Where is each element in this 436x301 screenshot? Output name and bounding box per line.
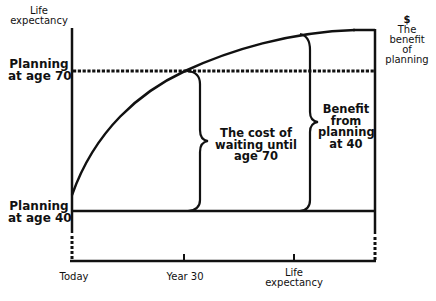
growth-curve bbox=[72, 30, 355, 195]
cost-of-waiting-label: The cost of waiting until age 70 bbox=[214, 128, 298, 163]
label-line: at age 70 bbox=[8, 70, 70, 82]
label-line: Today bbox=[52, 272, 96, 282]
label-line: age 70 bbox=[214, 151, 298, 163]
planning-70-label: Planning at age 70 bbox=[8, 58, 70, 82]
benefit-brace bbox=[300, 34, 318, 211]
label-line: at age 40 bbox=[8, 212, 70, 224]
x-label-life-expectancy: Life expectancy bbox=[264, 268, 324, 288]
benefit-from-planning-label: Benefit from planning at 40 bbox=[318, 104, 374, 150]
y-axis-top-label: Life expectancy bbox=[10, 6, 68, 26]
x-label-today: Today bbox=[52, 272, 96, 282]
x-label-year30: Year 30 bbox=[160, 272, 210, 282]
planning-diagram: Life expectancy Planning at age 70 Plann… bbox=[0, 0, 436, 301]
planning-40-label: Planning at age 40 bbox=[8, 200, 70, 224]
label-line: Year 30 bbox=[160, 272, 210, 282]
label-line: planning bbox=[382, 55, 432, 65]
label-line: at 40 bbox=[318, 139, 374, 151]
label-line: expectancy bbox=[264, 278, 324, 288]
label-line: expectancy bbox=[10, 16, 68, 26]
cost-brace bbox=[187, 71, 208, 211]
right-axis-label: $ The benefit of planning bbox=[382, 15, 432, 65]
